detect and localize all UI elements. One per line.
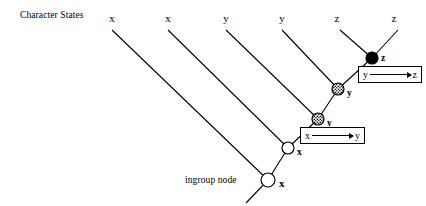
- arrow-shaft: [312, 135, 353, 136]
- black-node-z-state-label: z: [381, 54, 385, 64]
- tip-label-1: x: [109, 13, 115, 24]
- white-node-x: [282, 142, 294, 154]
- character-states-header: Character States: [20, 11, 84, 21]
- arrow-shaft: [370, 74, 411, 75]
- branch-layer: [112, 30, 398, 203]
- hatched-node-y-upper-state-label: y: [347, 89, 352, 99]
- ingroup-node-x-state-label: x: [279, 178, 285, 189]
- tip-label-4: y: [279, 13, 285, 24]
- tip-label-6: z: [392, 13, 397, 24]
- tip-label-2: x: [165, 13, 171, 24]
- branch-tip-2: [168, 30, 288, 148]
- ingroup-node-label: ingroup node: [185, 176, 237, 186]
- black-node-z: [366, 52, 378, 64]
- change-x-to-y-to-state: y: [355, 130, 360, 141]
- branch-tip-3: [226, 30, 318, 119]
- arrow-right-icon: [310, 135, 355, 136]
- change-y-to-z-to-state: z: [413, 69, 417, 80]
- tip-label-3: y: [223, 13, 229, 24]
- white-node-x-state-label: x: [297, 148, 302, 158]
- ingroup-node-x: [261, 173, 275, 187]
- change-x-to-y: xy: [300, 127, 365, 144]
- arrow-right-icon: [368, 74, 413, 75]
- tip-label-5: z: [335, 13, 340, 24]
- change-y-to-z: yz: [358, 66, 422, 83]
- hatched-node-y-upper: [332, 83, 344, 95]
- hatched-node-y-lower: [312, 113, 324, 125]
- figure-canvas: Character States xxyyzz zyyxx yzxy ingro…: [0, 0, 426, 206]
- branch-tip-4: [282, 30, 338, 89]
